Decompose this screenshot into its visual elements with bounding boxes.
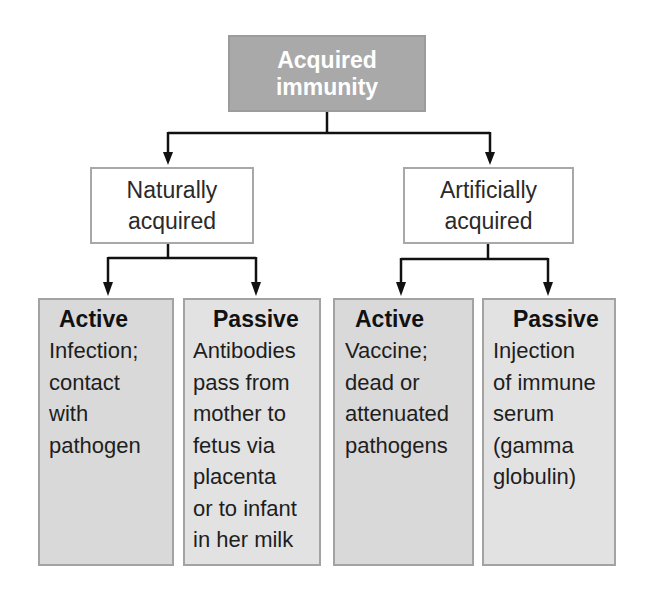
- node-artificial-passive: Passive Injection of immune serum (gamma…: [482, 298, 616, 566]
- node-artificial-active: Active Vaccine; dead or attenuated patho…: [333, 298, 474, 566]
- natural-label-line1: Naturally: [92, 175, 252, 206]
- natural-active-title: Active: [49, 306, 172, 332]
- node-naturally-acquired: Naturally acquired: [90, 167, 254, 244]
- root-node-acquired-immunity: Acquired immunity: [228, 35, 426, 112]
- artificial-active-title: Active: [345, 306, 472, 332]
- natural-passive-description: Antibodies pass from mother to fetus via…: [193, 335, 319, 556]
- artificial-label-line2: acquired: [405, 206, 572, 237]
- artificial-label-line1: Artificially: [405, 175, 572, 206]
- node-artificially-acquired: Artificially acquired: [403, 167, 574, 244]
- node-natural-active: Active Infection; contact with pathogen: [38, 298, 174, 566]
- node-natural-passive: Passive Antibodies pass from mother to f…: [183, 298, 321, 566]
- natural-label-line2: acquired: [92, 206, 252, 237]
- natural-passive-title: Passive: [193, 306, 319, 332]
- natural-active-description: Infection; contact with pathogen: [49, 335, 172, 461]
- artificial-passive-title: Passive: [493, 306, 614, 332]
- artificial-active-description: Vaccine; dead or attenuated pathogens: [345, 335, 472, 461]
- root-label-line2: immunity: [230, 74, 424, 101]
- root-label-line1: Acquired: [230, 47, 424, 74]
- artificial-passive-description: Injection of immune serum (gamma globuli…: [493, 335, 614, 493]
